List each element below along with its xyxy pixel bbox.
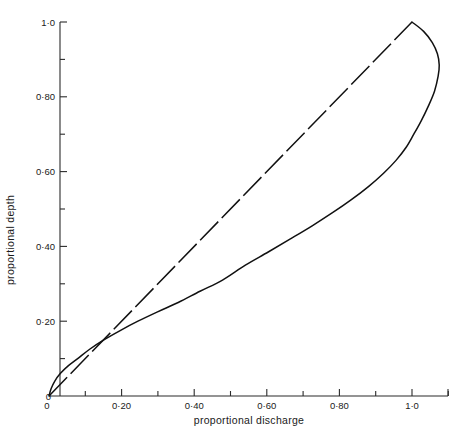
x-tick-label: 0·80 [330,400,349,411]
y-tick-label: 1·0 [41,17,55,28]
x-axis-title: proportional discharge [194,414,305,426]
x-tick-label: 1·0 [405,400,419,411]
y-tick-label: 0·20 [36,316,55,327]
x-tick-label: 0·20 [112,400,131,411]
series-reference-line [49,22,412,396]
y-tick-label: 0·80 [36,91,55,102]
y-axis-title: proportional depth [4,195,16,285]
y-axis-tick-labels: 00·200·400·600·801·0 [36,17,55,402]
x-tick-label: 0·40 [185,400,204,411]
x-axis-ticks [85,389,448,396]
y-axis-ticks [60,59,67,358]
x-axis-tick-labels: 00·200·400·600·801·0 [44,400,419,411]
x-tick-label: 0·60 [257,400,276,411]
y-tick-label: 0·60 [36,166,55,177]
chart-plot-area: 00·200·400·600·801·0 00·200·400·600·801·… [0,0,467,436]
chart-figure: 00·200·400·600·801·0 00·200·400·600·801·… [0,0,467,436]
series-circular-section-curve [49,22,439,396]
y-tick-label: 0·40 [36,241,55,252]
x-tick-label: 0 [44,400,49,411]
